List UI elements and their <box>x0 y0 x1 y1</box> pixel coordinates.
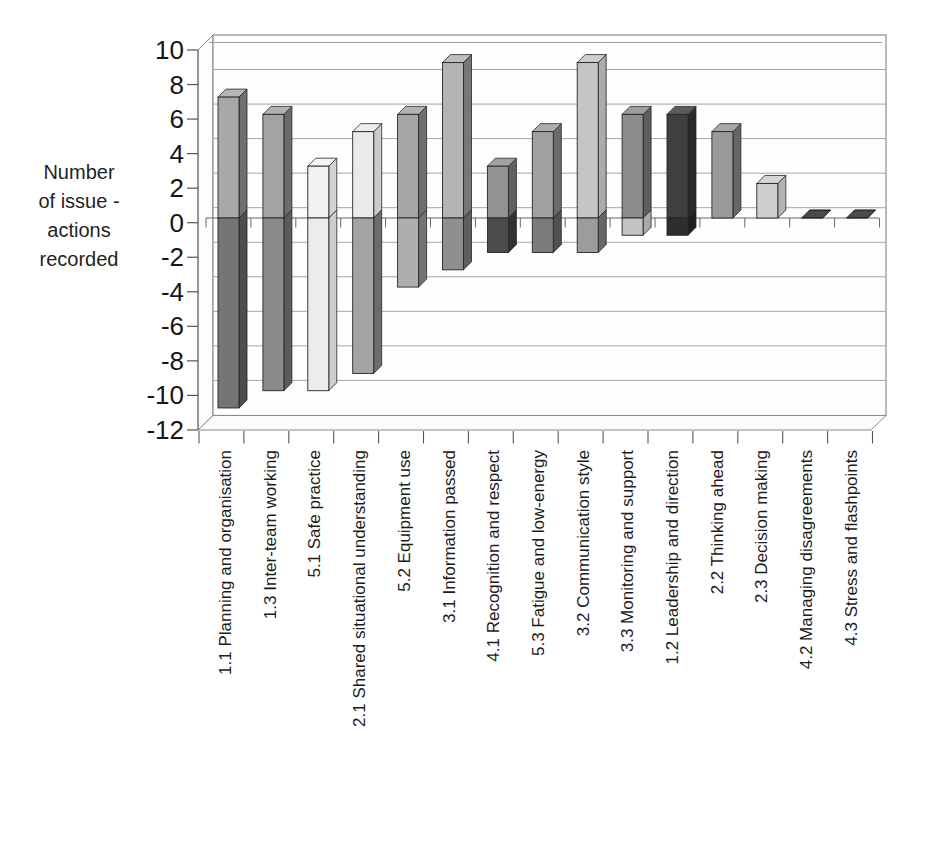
value-tick-label--6: -6 <box>104 313 184 339</box>
value-tick-label-10: 10 <box>104 37 184 63</box>
value-tick-label-2: 2 <box>104 175 184 201</box>
bar-side-positive <box>733 124 741 218</box>
bar-side-positive <box>553 124 561 218</box>
category-label-4-3-stress-and-flashpoints: 4.3 Stress and flashpoints <box>842 450 862 750</box>
bar-front-positive <box>757 183 778 218</box>
bar-front-positive <box>622 114 643 218</box>
bar-side-negative <box>419 210 427 287</box>
bar-side-positive <box>239 89 247 218</box>
bar-1-2-leadership-and-direction <box>667 106 696 235</box>
bar-front-negative <box>577 218 598 253</box>
value-tick-label-4: 4 <box>104 141 184 167</box>
bar-3-1-information-passed <box>443 55 472 270</box>
bar-front-negative <box>353 218 374 373</box>
category-label-5-1-safe-practice: 5.1 Safe practice <box>305 450 325 750</box>
bar-front-positive <box>532 132 553 218</box>
bar-front-positive <box>263 114 284 218</box>
bar-front-negative <box>263 218 284 391</box>
bar-side-negative <box>284 210 292 391</box>
bar-side-negative <box>239 210 247 408</box>
bar-front-positive <box>308 166 329 218</box>
bar-side-positive <box>464 55 472 218</box>
bar-side-negative <box>508 210 516 253</box>
bar-3-2-communication-style <box>577 55 606 253</box>
bar-front-positive <box>577 63 598 218</box>
bar-1-3-inter-team-working <box>263 106 292 390</box>
bar-front-negative <box>443 218 464 270</box>
category-label-1-1-planning-and-organisation: 1.1 Planning and organisation <box>216 450 236 750</box>
category-label-1-2-leadership-and-direction: 1.2 Leadership and direction <box>663 450 683 750</box>
bar-front-positive <box>443 63 464 218</box>
bar-front-negative <box>622 218 643 235</box>
bar-front-positive <box>353 132 374 218</box>
bar-2-3-decision-making <box>757 175 786 218</box>
bar-3-3-monitoring-and-support <box>622 106 651 235</box>
bar-side-negative <box>374 210 382 373</box>
bar-side-positive <box>688 106 696 218</box>
scanned-3d-bar-chart-figure: Number of issue - actions recorded 10864… <box>0 0 928 852</box>
bar-side-negative <box>553 210 561 253</box>
bar-front-positive <box>667 114 688 218</box>
bar-side-positive <box>419 106 427 218</box>
bar-side-negative <box>329 210 337 391</box>
bar-2-2-thinking-ahead <box>712 124 741 218</box>
bar-side-negative <box>464 210 472 270</box>
bar-2-1-shared-situational-understanding <box>353 124 382 374</box>
bar-side-positive <box>508 158 516 218</box>
bar-front-negative <box>218 218 239 408</box>
value-tick-label-6: 6 <box>104 106 184 132</box>
bar-front-positive <box>487 166 508 218</box>
bar-front-positive <box>398 114 419 218</box>
category-label-2-2-thinking-ahead: 2.2 Thinking ahead <box>708 450 728 750</box>
value-tick-label--8: -8 <box>104 348 184 374</box>
bar-side-positive <box>374 124 382 218</box>
bar-5-3-fatigue-and-low-energy <box>532 124 561 253</box>
value-tick-label--2: -2 <box>104 244 184 270</box>
category-label-4-2-managing-disagreements: 4.2 Managing disagreements <box>797 450 817 750</box>
value-tick-label--12: -12 <box>104 417 184 443</box>
value-tick-label-0: 0 <box>104 210 184 236</box>
category-label-3-1-information-passed: 3.1 Information passed <box>440 450 460 750</box>
bar-front-positive <box>712 132 733 218</box>
bar-front-negative <box>487 218 508 253</box>
category-label-3-3-monitoring-and-support: 3.3 Monitoring and support <box>618 450 638 750</box>
floor <box>198 416 886 431</box>
bar-5-1-safe-practice <box>308 158 337 391</box>
bar-side-positive <box>643 106 651 218</box>
bar-front-negative <box>398 218 419 287</box>
bar-front-positive <box>218 97 239 218</box>
category-label-4-1-recognition-and-respect: 4.1 Recognition and respect <box>484 450 504 750</box>
bar-4-1-recognition-and-respect <box>487 158 516 252</box>
bar-1-1-planning-and-organisation <box>218 89 247 408</box>
bar-front-negative <box>308 218 329 391</box>
category-label-5-2-equipment-use: 5.2 Equipment use <box>395 450 415 750</box>
category-label-2-1-shared-situational-understanding: 2.1 Shared situational understanding <box>350 450 370 750</box>
category-label-1-3-inter-team-working: 1.3 Inter-team working <box>261 450 281 750</box>
category-label-3-2-communication-style: 3.2 Communication style <box>574 450 594 750</box>
bar-side-positive <box>284 106 292 218</box>
bar-front-negative <box>667 218 688 235</box>
value-tick-label--10: -10 <box>104 382 184 408</box>
category-label-2-3-decision-making: 2.3 Decision making <box>752 450 772 750</box>
bar-side-negative <box>598 210 606 253</box>
bar-side-positive <box>329 158 337 218</box>
value-tick-label--4: -4 <box>104 279 184 305</box>
category-label-5-3-fatigue-and-low-energy: 5.3 Fatigue and low-energy <box>529 450 549 750</box>
left-wall <box>198 35 213 430</box>
bar-front-negative <box>532 218 553 253</box>
value-tick-label-8: 8 <box>104 72 184 98</box>
bar-side-positive <box>598 55 606 218</box>
bar-5-2-equipment-use <box>398 106 427 287</box>
category-axis-bottom <box>199 431 873 444</box>
